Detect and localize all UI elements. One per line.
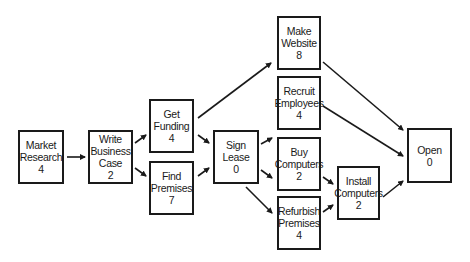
node-refurbish-premises: RefurbishPremises4 <box>277 196 321 250</box>
node-label-line: Find <box>162 170 181 182</box>
node-label-line: Business <box>90 145 130 157</box>
node-find-premises: FindPremises7 <box>149 161 194 215</box>
arrow-sign_lease-to-recruit_employees <box>261 138 272 144</box>
node-label-line: Open <box>417 144 442 156</box>
arrow-recruit_employees-to-open <box>323 106 403 156</box>
arrow-write_business_case-to-find_premises <box>135 168 146 176</box>
node-label-line: Lease <box>222 151 249 163</box>
node-label-line: Make <box>287 25 311 37</box>
node-label-line: Website <box>281 37 317 49</box>
node-label-line: Premises <box>278 217 319 229</box>
arrow-get_funding-to-make_website <box>198 63 271 118</box>
node-label-line: Premises <box>151 182 192 194</box>
arrow-buy_computers-to-install_computers <box>323 177 333 184</box>
arrow-install_computers-to-open <box>383 181 403 197</box>
node-duration: 0 <box>233 163 239 175</box>
node-market-research: MarketResearch4 <box>18 130 64 184</box>
node-label-line: Employees <box>274 97 323 109</box>
node-recruit-employees: RecruitEmployees4 <box>277 76 321 130</box>
arrow-sign_lease-to-buy_computers <box>261 170 272 178</box>
arrow-make_website-to-open <box>323 62 403 130</box>
node-duration: 0 <box>427 156 433 168</box>
node-duration: 7 <box>169 194 175 206</box>
arrow-get_funding-to-sign_lease <box>198 135 209 143</box>
node-label-line: Case <box>99 157 122 169</box>
node-label-line: Install <box>346 175 371 187</box>
node-install-computers: InstallComputers2 <box>337 166 380 220</box>
node-duration: 4 <box>296 229 302 241</box>
node-label-line: Computers <box>275 158 324 170</box>
arrow-refurbish_premises-to-install_computers <box>323 205 333 212</box>
node-label-line: Buy <box>290 146 307 158</box>
node-label-line: Get <box>163 108 179 120</box>
node-label-line: Research <box>20 151 63 163</box>
node-buy-computers: BuyComputers2 <box>277 137 321 191</box>
node-get-funding: GetFunding4 <box>149 99 194 153</box>
node-make-website: MakeWebsite8 <box>277 16 321 70</box>
node-duration: 4 <box>38 163 44 175</box>
node-duration: 8 <box>296 49 302 61</box>
node-duration: 2 <box>356 199 362 211</box>
node-write-business-case: WriteBusinessCase2 <box>88 130 133 184</box>
node-duration: 2 <box>108 169 114 181</box>
node-label-line: Write <box>99 133 122 145</box>
node-duration: 4 <box>169 132 175 144</box>
node-label-line: Recruit <box>283 85 314 97</box>
node-label-line: Sign <box>226 139 246 151</box>
node-label-line: Computers <box>334 187 383 199</box>
arrow-sign_lease-to-refurbish_premises <box>246 187 272 213</box>
node-duration: 4 <box>296 109 302 121</box>
arrow-find_premises-to-sign_lease <box>198 168 209 176</box>
node-sign-lease: SignLease0 <box>213 130 259 184</box>
node-label-line: Market <box>26 139 56 151</box>
arrow-write_business_case-to-get_funding <box>135 135 146 143</box>
node-duration: 2 <box>296 170 302 182</box>
node-label-line: Funding <box>154 120 190 132</box>
node-open: Open0 <box>407 128 452 183</box>
node-label-line: Refurbish <box>278 205 320 217</box>
